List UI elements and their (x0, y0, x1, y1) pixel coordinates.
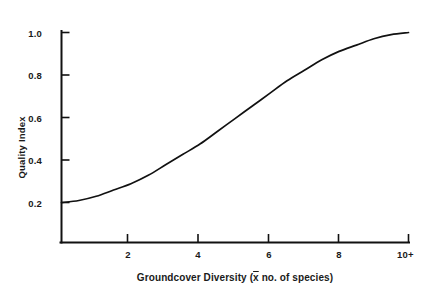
y-tick-label-0.8: 0.8 (16, 70, 42, 81)
x-axis-title-prefix: Groundcover Diversity ( (137, 272, 253, 283)
y-tick-label-0.2: 0.2 (16, 198, 42, 209)
x-tick-label-2: 2 (125, 249, 130, 260)
y-axis-title: Quality Index (16, 89, 27, 179)
x-tick-label-8: 8 (336, 249, 341, 260)
x-tick-label-4: 4 (195, 249, 200, 260)
chart-figure: 1.0 0.8 0.6 0.4 0.2 2 4 6 8 10+ Quality … (0, 0, 435, 297)
x-tick-label-6: 6 (266, 249, 271, 260)
quality-index-curve (62, 33, 409, 203)
plot-area (0, 0, 435, 297)
y-tick-group (62, 33, 70, 203)
x-axis-title: Groundcover Diversity (x no. of species) (60, 272, 410, 283)
y-tick-label-1.0: 1.0 (16, 28, 42, 39)
x-tick-label-10-plus: 10+ (397, 249, 414, 260)
x-tick-group (128, 234, 409, 243)
x-axis-title-suffix: no. of species) (259, 272, 333, 283)
